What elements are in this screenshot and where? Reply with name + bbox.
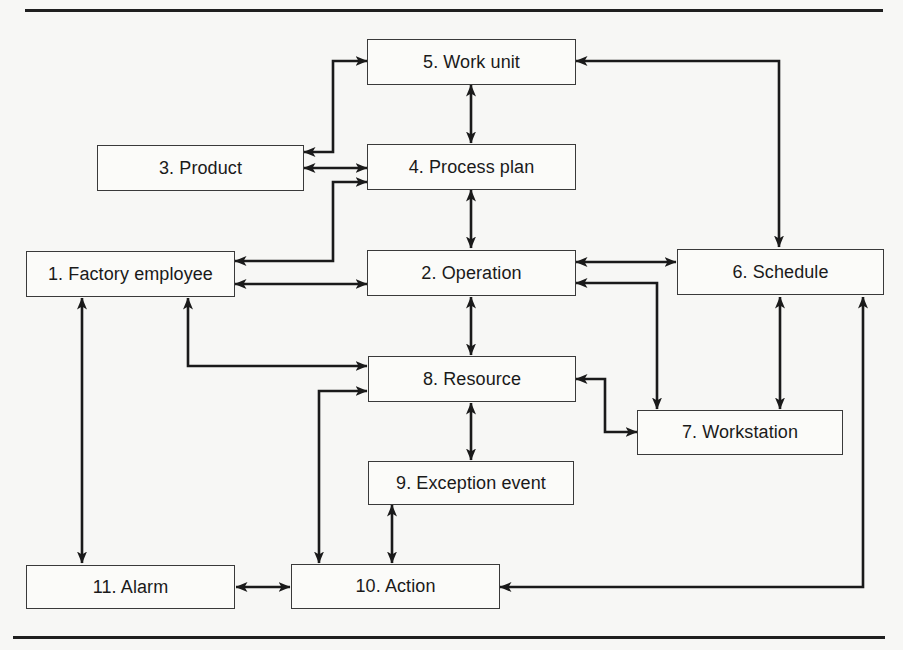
node-product[interactable]: 3. Product: [97, 145, 304, 191]
edge-employee-resource: [188, 298, 367, 366]
edge-product-workunit: [304, 61, 367, 152]
node-label: 10. Action: [355, 576, 435, 597]
node-label: 5. Work unit: [423, 52, 520, 73]
node-label: 11. Alarm: [93, 577, 169, 598]
node-schedule[interactable]: 6. Schedule: [677, 249, 884, 295]
diagram-canvas: 5. Work unit 3. Product 4. Process plan …: [0, 0, 903, 650]
node-label: 6. Schedule: [732, 262, 828, 283]
node-alarm[interactable]: 11. Alarm: [26, 565, 235, 609]
node-label: 9. Exception event: [396, 473, 546, 494]
edge-employee-processplan: [235, 182, 367, 261]
node-label: 4. Process plan: [409, 157, 535, 178]
node-label: 7. Workstation: [682, 422, 798, 443]
edge-workunit-schedule: [576, 61, 779, 247]
node-process-plan[interactable]: 4. Process plan: [367, 144, 576, 190]
node-action[interactable]: 10. Action: [291, 564, 500, 609]
node-label: 1. Factory employee: [48, 264, 213, 285]
connector-layer: [0, 0, 903, 650]
node-label: 3. Product: [159, 158, 242, 179]
node-operation[interactable]: 2. Operation: [367, 250, 576, 296]
node-resource[interactable]: 8. Resource: [368, 356, 576, 402]
edge-resource-workstation: [576, 379, 637, 432]
node-workstation[interactable]: 7. Workstation: [637, 410, 843, 455]
node-exception-event[interactable]: 9. Exception event: [368, 461, 574, 505]
edge-resource-action: [319, 391, 367, 563]
edge-operation-workstation: [576, 283, 657, 409]
node-label: 2. Operation: [421, 263, 521, 284]
node-factory-employee[interactable]: 1. Factory employee: [26, 251, 235, 297]
node-work-unit[interactable]: 5. Work unit: [367, 39, 576, 85]
node-label: 8. Resource: [423, 369, 521, 390]
